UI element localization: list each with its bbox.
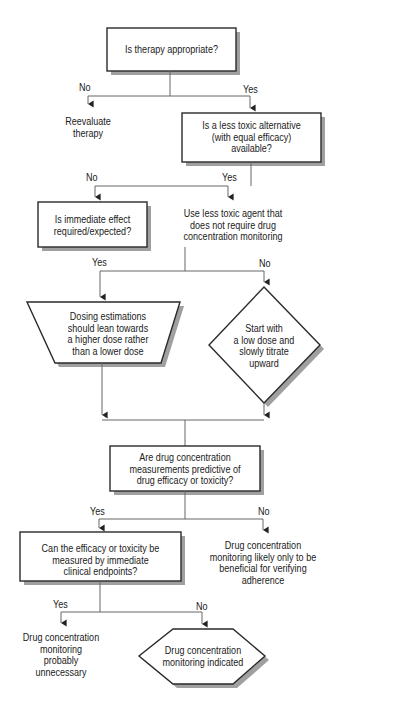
node-higher-dose-text: Dosing estimations should lean towards a… — [56, 311, 159, 357]
edge-label-endpoints-yes: Yes — [53, 598, 68, 610]
edge-label-less-toxic-no: No — [86, 171, 98, 183]
connector-predictive — [99, 491, 263, 530]
node-q-predictive-text: Are drug concentration measurements pred… — [121, 452, 250, 487]
edge-label-predictive-yes: Yes — [90, 505, 105, 517]
node-q-immediate-text: Is immediate effect required/expected? — [46, 214, 140, 237]
node-q-endpoints-text: Can the efficacy or toxicity be measured… — [31, 543, 169, 578]
edge-label-predictive-no: No — [258, 505, 270, 517]
node-unnecessary-text: Drug concentration monitoring probably u… — [22, 632, 99, 678]
edge-label-less-toxic-yes: Yes — [222, 171, 237, 183]
edge-label-therapy-no: No — [79, 81, 91, 93]
connector-immediate — [100, 247, 264, 297]
node-low-dose-text: Start with a low dose and slowly titrate… — [225, 323, 302, 369]
connector-endpoints — [61, 581, 202, 624]
node-q-less-toxic-text: Is a less toxic alternative (with equal … — [192, 120, 312, 155]
node-use-less-toxic-text: Use less toxic agent that does not requi… — [177, 208, 289, 243]
node-adherence-text: Drug concentration monitoring likely onl… — [207, 540, 319, 586]
edge-label-immediate-yes: Yes — [92, 256, 107, 268]
edge-label-endpoints-no: No — [196, 600, 208, 612]
node-indicated-text: Drug concentration monitoring indicated — [157, 645, 250, 668]
connector-therapy — [88, 71, 250, 108]
edge-label-therapy-yes: Yes — [243, 83, 258, 95]
node-reevaluate-text: Reevaluate therapy — [54, 116, 123, 139]
node-q-therapy-text: Is therapy appropriate? — [116, 44, 227, 56]
edge-label-immediate-no: No — [259, 257, 271, 269]
